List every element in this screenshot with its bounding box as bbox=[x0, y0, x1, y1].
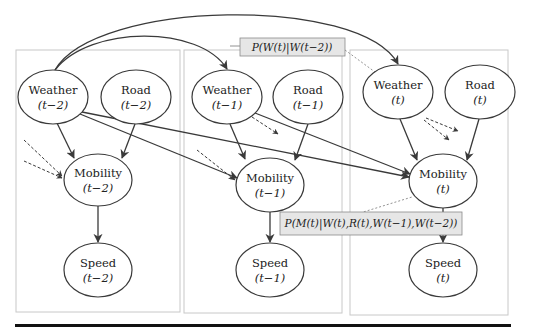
svg-text:Mobility: Mobility bbox=[74, 166, 123, 180]
dashed-in-mobility-t1 bbox=[197, 150, 235, 180]
svg-text:Mobility: Mobility bbox=[246, 171, 295, 185]
node-weather-t-1: Weather (t−1) bbox=[192, 70, 262, 124]
svg-text:(t−1): (t−1) bbox=[212, 98, 243, 112]
dashed-in-mobility-t2-a bbox=[24, 140, 62, 176]
svg-text:Road: Road bbox=[293, 83, 323, 97]
node-mobility-t-1: Mobility (t−1) bbox=[236, 158, 304, 212]
svg-text:Road: Road bbox=[465, 78, 495, 92]
leader-mobility-conditional bbox=[360, 197, 412, 213]
node-road-t-1: Road (t−1) bbox=[273, 70, 343, 124]
svg-text:(t): (t) bbox=[436, 271, 450, 285]
svg-text:(t): (t) bbox=[391, 93, 405, 107]
node-weather-t: Weather (t) bbox=[363, 65, 433, 119]
svg-text:Weather: Weather bbox=[374, 78, 423, 92]
dashed-in-mobility-t2-b bbox=[24, 161, 62, 178]
svg-text:(t−2): (t−2) bbox=[121, 98, 152, 112]
svg-text:(t−1): (t−1) bbox=[293, 98, 324, 112]
node-speed-t-2: Speed (t−2) bbox=[64, 243, 132, 297]
svg-text:P(M(t)|W(t),R(t),W(t−1),W(t−2): P(M(t)|W(t),R(t),W(t−1),W(t−2)) bbox=[284, 217, 458, 231]
svg-text:Speed: Speed bbox=[252, 256, 289, 270]
edge-road-t2-to-mobility-t2 bbox=[122, 124, 135, 158]
svg-text:Weather: Weather bbox=[203, 83, 252, 97]
svg-text:Mobility: Mobility bbox=[419, 167, 468, 181]
svg-text:P(W(t)|W(t−2)): P(W(t)|W(t−2)) bbox=[251, 41, 333, 55]
edge-weather-t-to-mobility-t bbox=[400, 119, 417, 160]
svg-text:Speed: Speed bbox=[80, 256, 117, 270]
svg-text:Road: Road bbox=[121, 83, 151, 97]
node-mobility-t: Mobility (t) bbox=[409, 154, 477, 208]
dashed-out-weather-t1 bbox=[252, 117, 278, 134]
edge-weather-t2-to-weather-t bbox=[55, 15, 398, 70]
svg-text:Weather: Weather bbox=[29, 83, 78, 97]
svg-text:(t−2): (t−2) bbox=[83, 271, 114, 285]
node-mobility-t-2: Mobility (t−2) bbox=[64, 154, 132, 206]
svg-text:(t): (t) bbox=[473, 93, 487, 107]
annotation-weather-transition: P(W(t)|W(t−2)) bbox=[240, 38, 345, 56]
dashed-out-weather-t-a bbox=[426, 118, 458, 131]
dashed-out-weather-t-b bbox=[424, 120, 449, 140]
svg-text:(t): (t) bbox=[436, 182, 450, 196]
svg-text:(t−1): (t−1) bbox=[255, 271, 286, 285]
edge-road-t-to-mobility-t bbox=[467, 119, 479, 160]
svg-text:(t−1): (t−1) bbox=[255, 186, 286, 200]
annotation-mobility-conditional: P(M(t)|W(t),R(t),W(t−1),W(t−2)) bbox=[280, 212, 462, 235]
svg-text:Speed: Speed bbox=[425, 256, 462, 270]
node-speed-t: Speed (t) bbox=[409, 243, 477, 297]
bottom-rule bbox=[15, 324, 511, 327]
dbn-diagram: Weather (t−2) Road (t−2) Mobility (t−2) … bbox=[0, 0, 538, 332]
edge-weather-t2-to-weather-t1 bbox=[55, 36, 227, 70]
node-road-t-2: Road (t−2) bbox=[101, 70, 171, 124]
svg-text:(t−2): (t−2) bbox=[83, 181, 114, 195]
edge-weather-t2-to-mobility-t2 bbox=[57, 123, 74, 158]
svg-text:(t−2): (t−2) bbox=[38, 98, 69, 112]
node-speed-t-1: Speed (t−1) bbox=[236, 243, 304, 297]
node-weather-t-2: Weather (t−2) bbox=[18, 70, 88, 124]
node-road-t: Road (t) bbox=[445, 65, 515, 119]
